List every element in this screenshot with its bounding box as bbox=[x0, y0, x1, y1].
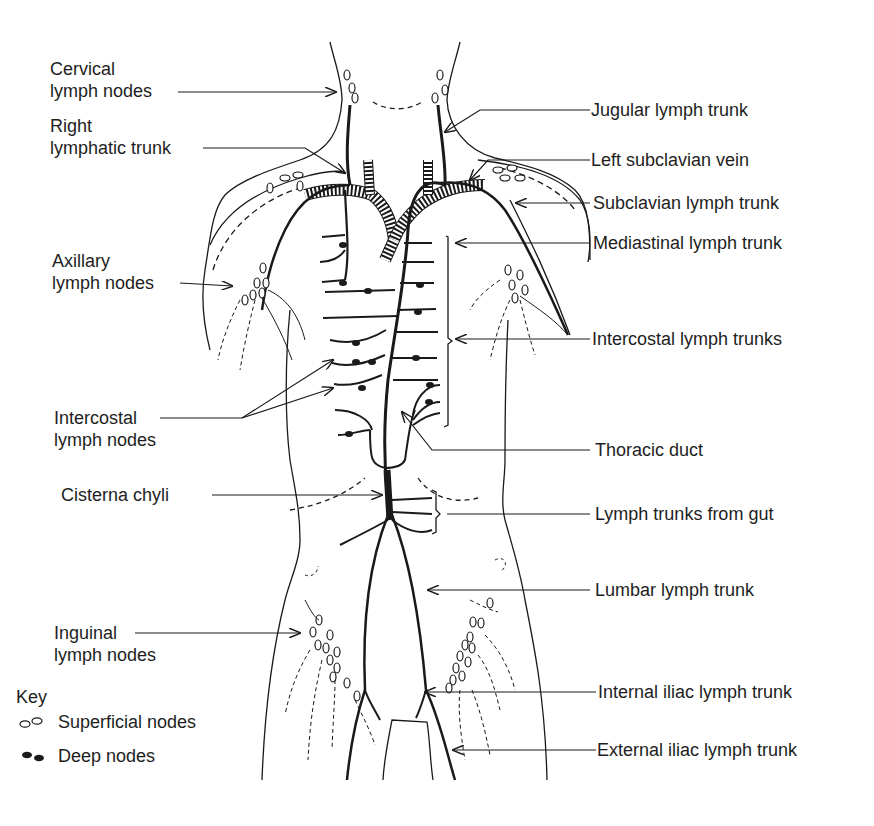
key-title: Key bbox=[16, 686, 47, 708]
subclavian-veins bbox=[305, 160, 485, 260]
label-intercostal-lymph-trunks: Intercostal lymph trunks bbox=[592, 328, 782, 350]
label-mediastinal-lymph-trunk: Mediastinal lymph trunk bbox=[593, 232, 782, 254]
label-line: lymph nodes bbox=[50, 80, 152, 102]
label-line: Cervical bbox=[50, 58, 152, 80]
label-line: lymph nodes bbox=[52, 272, 154, 294]
label-inguinal-lymph-nodes: Inguinal lymph nodes bbox=[54, 622, 156, 666]
label-intercostal-lymph-nodes: Intercostal lymph nodes bbox=[54, 407, 156, 451]
open-oval-icon bbox=[18, 716, 48, 730]
label-subclavian-lymph-trunk: Subclavian lymph trunk bbox=[593, 192, 779, 214]
key-item-deep: Deep nodes bbox=[58, 745, 155, 767]
lymphatic-diagram: Cervical lymph nodes Right lymphatic tru… bbox=[0, 0, 874, 826]
filled-oval-icon bbox=[20, 750, 50, 764]
label-line: lymph nodes bbox=[54, 644, 156, 666]
key-item-superficial: Superficial nodes bbox=[58, 711, 196, 733]
label-lymph-trunks-from-gut: Lymph trunks from gut bbox=[595, 503, 773, 525]
label-line: Axillary bbox=[52, 250, 154, 272]
label-cisterna-chyli: Cisterna chyli bbox=[61, 484, 169, 506]
label-line: Inguinal bbox=[54, 622, 156, 644]
label-cervical-lymph-nodes: Cervical lymph nodes bbox=[50, 58, 152, 102]
label-line: lymphatic trunk bbox=[50, 137, 171, 159]
label-lumbar-lymph-trunk: Lumbar lymph trunk bbox=[595, 579, 754, 601]
label-internal-iliac-lymph-trunk: Internal iliac lymph trunk bbox=[598, 681, 792, 703]
label-left-subclavian-vein: Left subclavian vein bbox=[591, 149, 749, 171]
label-external-iliac-lymph-trunk: External iliac lymph trunk bbox=[597, 739, 797, 761]
label-line: Right bbox=[50, 115, 171, 137]
label-jugular-lymph-trunk: Jugular lymph trunk bbox=[591, 99, 748, 121]
label-line: Intercostal bbox=[54, 407, 156, 429]
label-line: Cisterna chyli bbox=[61, 484, 169, 506]
body-outline bbox=[203, 42, 590, 780]
label-thoracic-duct: Thoracic duct bbox=[595, 439, 703, 461]
label-line: lymph nodes bbox=[54, 429, 156, 451]
label-axillary-lymph-nodes: Axillary lymph nodes bbox=[52, 250, 154, 294]
label-right-lymphatic-trunk: Right lymphatic trunk bbox=[50, 115, 171, 159]
